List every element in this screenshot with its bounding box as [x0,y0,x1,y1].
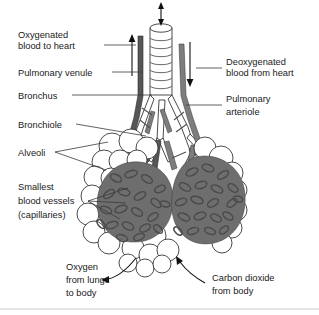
arteriole-flow-arrow [187,42,194,87]
label-pulmonary-arteriole-line2: arteriole [226,107,260,117]
carbon-dioxide-in-arrow [176,256,205,283]
label-pulmonary-venule: Pulmonary venule [18,68,92,78]
label-bronchus: Bronchus [18,91,58,101]
label-alveoli: Alveoli [18,148,45,158]
diagram-canvas: Oxygenated blood to heart Pulmonary venu… [0,0,319,315]
venule-flow-arrow [129,34,136,76]
label-oxygen-out: Oxygen from lungs to body [66,262,110,298]
label-capillaries-line3: (capillaries) [18,210,66,220]
label-oxygenated-blood-line1: Oxygenated [18,30,68,40]
label-pulmonary-arteriole: Pulmonary arteriole [226,94,271,117]
lung-alveoli-diagram: Oxygenated blood to heart Pulmonary venu… [0,0,319,315]
capillary-mesh-right [172,156,245,244]
label-capillaries: Smallest blood vessels (capillaries) [18,182,75,220]
airflow-arrow [158,2,164,26]
label-oxygen-out-line2: from lungs [66,275,110,285]
label-bronchiole: Bronchiole [18,120,62,130]
trachea-group [150,24,172,95]
trachea-tube [150,28,172,95]
label-deoxygenated-blood-line1: Deoxygenated [226,57,286,67]
label-carbon-dioxide-in-line1: Carbon dioxide [212,273,275,283]
label-deoxygenated-blood: Deoxygenated blood from heart [226,57,294,78]
label-oxygenated-blood-line2: blood to heart [18,41,75,51]
capillary-networks [96,156,246,244]
label-oxygen-out-line3: to body [66,288,97,298]
label-capillaries-line2: blood vessels [18,196,75,206]
label-deoxygenated-blood-line2: blood from heart [226,68,294,78]
label-pulmonary-arteriole-line1: Pulmonary [226,94,271,104]
label-capillaries-line1: Smallest [18,182,54,192]
label-oxygen-out-line1: Oxygen [66,262,98,272]
label-carbon-dioxide-in: Carbon dioxide from body [212,273,275,296]
label-oxygenated-blood: Oxygenated blood to heart [18,30,75,51]
label-carbon-dioxide-in-line2: from body [212,286,254,296]
